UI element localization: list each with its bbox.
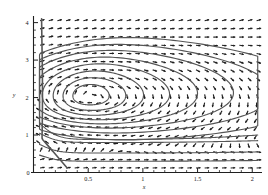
x-tick-label: 1 [141, 175, 144, 182]
y-tick-label: 4 [25, 19, 28, 26]
x-axis-label: x [142, 184, 146, 190]
plot-canvas: 0 x y 0.511.521234 [0, 0, 268, 195]
x-tick-label: 1.5 [194, 175, 202, 182]
x-tick-label: 2 [251, 175, 254, 182]
y-axis-label: y [12, 92, 16, 98]
y-tick-label: 1 [25, 131, 28, 138]
vector-field-figure: 0 x y 0.511.521234 [0, 0, 268, 195]
x-origin-tick-label: 0 [26, 169, 29, 176]
y-tick-label: 2 [25, 94, 28, 101]
y-tick-label: 3 [25, 56, 28, 63]
x-tick-label: 0.5 [84, 175, 92, 182]
